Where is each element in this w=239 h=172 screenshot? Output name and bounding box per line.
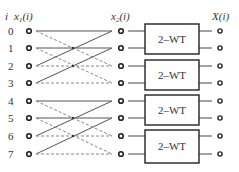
header-input: x1(i) bbox=[13, 10, 33, 24]
input-nodes bbox=[27, 29, 32, 157]
row-index-2: 2 bbox=[8, 60, 14, 72]
butterfly-group-2 bbox=[36, 101, 112, 154]
wt-block-4-label: 2–WT bbox=[158, 140, 186, 152]
header-middle: x2(i) bbox=[110, 10, 130, 24]
row-index-4: 4 bbox=[8, 95, 14, 107]
wt-block-3-label: 2–WT bbox=[158, 104, 186, 116]
header-index: i bbox=[5, 10, 8, 22]
row-index-7: 7 bbox=[8, 148, 14, 160]
wt-block-1-label: 2–WT bbox=[158, 33, 186, 45]
row-index-5: 5 bbox=[8, 112, 14, 124]
row-index-labels: 0 1 2 3 4 5 6 7 bbox=[8, 25, 14, 160]
header-output: X(i) bbox=[211, 10, 229, 23]
butterfly-diagram: i x1(i) x2(i) X(i) 0 1 2 3 4 5 6 7 bbox=[0, 0, 239, 172]
butterfly-group-1 bbox=[36, 31, 112, 83]
output-nodes bbox=[218, 29, 222, 156]
row-index-1: 1 bbox=[8, 42, 14, 54]
middle-nodes bbox=[119, 29, 124, 157]
row-index-6: 6 bbox=[8, 130, 14, 142]
row-index-3: 3 bbox=[8, 77, 14, 89]
wt-block-2-label: 2–WT bbox=[158, 69, 186, 81]
row-index-0: 0 bbox=[8, 25, 14, 37]
